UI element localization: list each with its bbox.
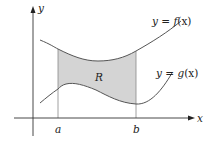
- tick-label-b: b: [133, 123, 140, 135]
- y-axis-arrow-icon: [31, 6, 36, 13]
- y-axis-label: y: [37, 2, 45, 14]
- x-axis-label: x: [197, 112, 203, 124]
- tick-label-a: a: [55, 123, 61, 135]
- region-between-curves-diagram: y x a b R y = f(x) y = g(x): [0, 0, 208, 145]
- x-axis-arrow-icon: [188, 116, 195, 121]
- curve-f-label: y = f(x): [151, 15, 191, 27]
- curve-g-label: y = g(x): [155, 67, 198, 79]
- region-label: R: [94, 71, 103, 83]
